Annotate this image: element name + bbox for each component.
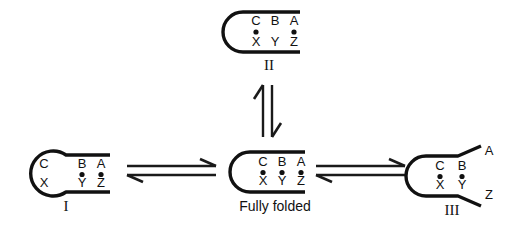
- fully-folded-bottom-base-0: X: [259, 173, 268, 188]
- fully-folded-bottom-base-2: Z: [297, 173, 305, 188]
- structure-II-bottom-base-1: Y: [271, 34, 280, 49]
- structure-I: C B A X Y Z I: [31, 151, 110, 214]
- structure-II: C B A X Y Z II: [223, 12, 300, 73]
- structure-fully-folded: C B A X Y Z Fully folded: [230, 152, 311, 214]
- structure-III-splayed-top-base: A: [485, 143, 494, 158]
- structure-I-label: I: [64, 198, 69, 214]
- figure-canvas: C B A X Y Z II C B: [0, 0, 510, 228]
- structure-II-top-base-2: A: [290, 13, 299, 28]
- fully-folded-bottom-base-1: Y: [278, 173, 287, 188]
- fully-folded-top-base-1: B: [278, 154, 287, 169]
- structure-III-top-base-0: C: [435, 158, 444, 173]
- structure-I-top-base-1: B: [78, 156, 87, 171]
- equilibrium-arrow-left: [127, 159, 216, 182]
- structure-I-bottom-base-0: X: [40, 175, 49, 190]
- fully-folded-top-base-2: A: [297, 154, 306, 169]
- structure-I-bottom-base-1: Y: [78, 175, 87, 190]
- structure-III-bottom-base-0: X: [436, 177, 445, 192]
- fully-folded-label: Fully folded: [239, 198, 311, 214]
- structure-III-splayed-bottom-base: Z: [485, 187, 493, 202]
- structure-II-label: II: [264, 57, 274, 73]
- structure-II-top-base-0: C: [251, 13, 260, 28]
- structure-I-bottom-base-2: Z: [97, 175, 105, 190]
- vertical-arrow-down-head: [272, 123, 281, 137]
- equilibrium-arrow-vertical: [254, 85, 281, 137]
- equilibrium-arrow-right: [316, 159, 405, 182]
- folding-equilibrium-diagram: C B A X Y Z II C B: [0, 0, 510, 228]
- structure-III: C B X Y A Z III: [406, 143, 494, 218]
- structure-II-backbone: [223, 12, 300, 52]
- structure-I-top-base-2: A: [97, 156, 106, 171]
- structure-II-bottom-base-2: Z: [290, 34, 298, 49]
- structure-I-top-base-0: C: [39, 156, 48, 171]
- structure-III-label: III: [445, 202, 460, 218]
- structure-III-bottom-base-1: Y: [458, 177, 467, 192]
- structure-II-bottom-base-0: X: [252, 34, 261, 49]
- vertical-arrow-up-head: [254, 85, 263, 99]
- structure-III-backbone-top: [406, 146, 481, 206]
- fully-folded-top-base-0: C: [258, 154, 267, 169]
- structure-II-top-base-1: B: [271, 13, 280, 28]
- structure-III-top-base-1: B: [458, 158, 467, 173]
